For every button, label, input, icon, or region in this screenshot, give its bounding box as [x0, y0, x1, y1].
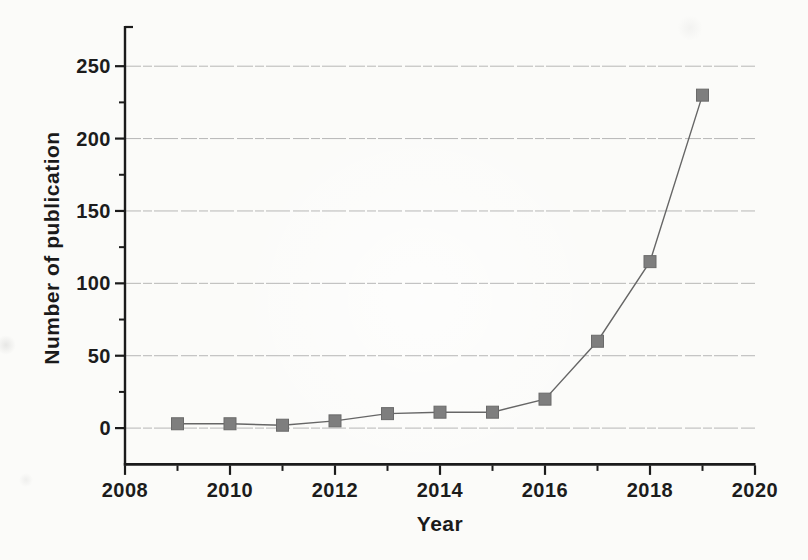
data-point-2013 [382, 408, 394, 420]
y-axis-title: Number of publication [40, 131, 64, 364]
data-point-2017 [592, 335, 604, 347]
x-tick-label-2016: 2016 [522, 479, 569, 502]
data-point-2014 [434, 406, 446, 418]
x-axis-title: Year [417, 512, 463, 536]
x-tick-label-2020: 2020 [732, 479, 779, 502]
y-tick-label-150: 150 [76, 199, 111, 222]
x-tick-label-2008: 2008 [102, 479, 149, 502]
data-point-2015 [487, 406, 499, 418]
series-line [178, 95, 703, 425]
x-tick-label-2012: 2012 [312, 479, 359, 502]
data-point-2009 [172, 418, 184, 430]
y-tick-label-250: 250 [76, 55, 111, 78]
plot-area [0, 0, 808, 560]
y-tick-label-200: 200 [76, 127, 111, 150]
y-tick-label-0: 0 [99, 417, 111, 440]
y-tick-label-50: 50 [88, 344, 111, 367]
data-point-2019 [697, 89, 709, 101]
data-point-2016 [539, 393, 551, 405]
data-point-2018 [644, 256, 656, 268]
x-tick-label-2010: 2010 [207, 479, 254, 502]
y-tick-label-100: 100 [76, 272, 111, 295]
data-point-2010 [224, 418, 236, 430]
x-tick-label-2014: 2014 [417, 479, 464, 502]
data-point-2012 [329, 415, 341, 427]
x-tick-label-2018: 2018 [627, 479, 674, 502]
publication-trend-chart: Number of publication Year 0501001502002… [0, 0, 808, 560]
data-point-2011 [277, 419, 289, 431]
